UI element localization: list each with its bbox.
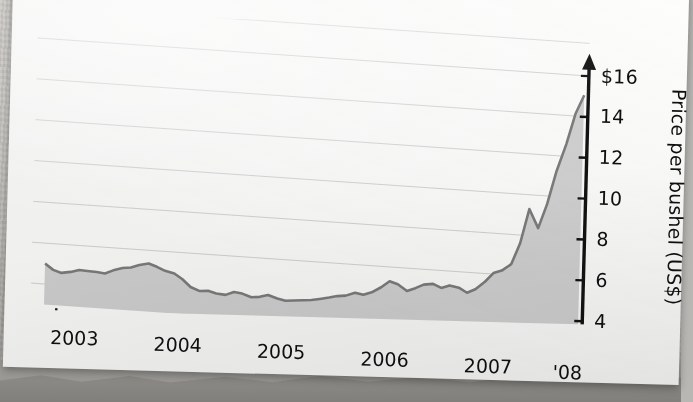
y-axis-tick-label: 6	[595, 269, 608, 291]
area-fill-group	[43, 81, 584, 325]
x-axis-tick-label: 2004	[153, 333, 202, 356]
y-axis-arrowhead	[582, 54, 596, 70]
chart-plot-area	[26, 14, 606, 325]
x-axis-tick-label: 2005	[257, 340, 306, 363]
x-axis-tick-label: 2007	[463, 354, 512, 377]
x-axis-tick-label: '08	[552, 361, 582, 384]
y-axis-tick-label: 8	[596, 228, 609, 250]
x-axis-tick-label: 2006	[360, 347, 409, 370]
y-axis-tick-label: 14	[600, 105, 625, 128]
area-fill-path	[43, 81, 584, 325]
y-axis-tick-label: 10	[597, 187, 622, 210]
y-axis-tick-label: 4	[594, 310, 607, 332]
price-area-chart	[26, 14, 606, 325]
x-axis-arrowhead	[26, 310, 44, 324]
y-axis-tick-label: $16	[601, 64, 639, 87]
x-axis-tick-label: 2003	[50, 326, 99, 349]
y-axis-title: Price per bushel (US$)	[663, 89, 691, 306]
y-axis-tick-label: 12	[598, 146, 623, 169]
cropped-headline-fragment: ••	[559, 0, 668, 9]
printed-page: •• $16141210864 20032004200520062007'08 …	[3, 0, 689, 385]
